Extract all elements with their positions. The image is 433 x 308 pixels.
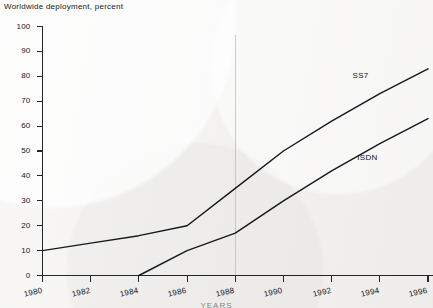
series-label-isdn: ISDN	[357, 153, 377, 162]
y-tick-label: 20	[5, 221, 31, 230]
y-tick-label: 60	[5, 121, 31, 130]
y-tick-label: 100	[5, 22, 31, 31]
chart-page: Worldwide deployment, percent 0102030405…	[0, 0, 433, 308]
y-tick-label: 90	[5, 46, 31, 55]
y-tick-label: 80	[5, 71, 31, 80]
y-tick-label: 50	[5, 146, 31, 155]
x-axis-ticks	[43, 276, 429, 282]
x-axis-title: YEARS	[0, 301, 433, 308]
y-tick-label: 30	[5, 196, 31, 205]
series-label-ss7: SS7	[353, 71, 369, 80]
y-axis-ticks	[37, 27, 43, 276]
y-tick-label: 70	[5, 96, 31, 105]
chart-title: Worldwide deployment, percent	[4, 2, 123, 11]
axes-group	[43, 27, 433, 276]
y-tick-label: 40	[5, 171, 31, 180]
y-tick-label: 10	[5, 246, 31, 255]
y-tick-label: 0	[5, 271, 31, 280]
